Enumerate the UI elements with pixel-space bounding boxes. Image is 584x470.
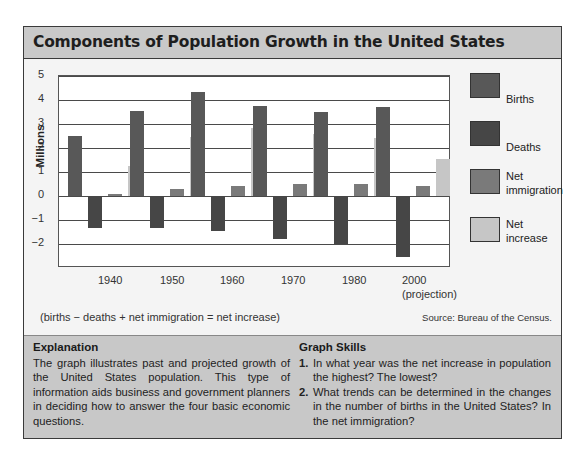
source-note: Source: Bureau of the Census. — [422, 312, 552, 323]
bar-deaths — [211, 196, 225, 231]
question-text: What trends can be determined in the cha… — [313, 386, 551, 427]
question-number: 1. — [299, 356, 308, 370]
chart-title: Components of Population Growth in the U… — [33, 33, 504, 51]
x-tick-label: 2000 — [402, 273, 457, 287]
info-panel: Explanation The graph illustrates past a… — [24, 335, 561, 438]
chart-area: Millions 5 4 3 2 1 0 −1 −2 1940 1950 196… — [24, 60, 561, 335]
bar-deaths — [334, 196, 348, 244]
bar-net-immigration — [108, 194, 122, 196]
y-tick: −1 — [24, 212, 44, 224]
legend-label-text: immigration — [506, 183, 563, 197]
gridline — [59, 220, 449, 221]
bar-net-immigration — [354, 184, 368, 196]
explanation-heading: Explanation — [33, 341, 290, 353]
legend-swatch — [470, 121, 500, 146]
plot-area — [58, 75, 450, 267]
legend-swatch — [470, 217, 500, 242]
gridline — [59, 76, 449, 77]
bar-births — [253, 106, 267, 196]
y-tick: 1 — [24, 164, 44, 176]
bar-births — [314, 112, 328, 196]
x-tick-label: 1940 — [98, 274, 122, 286]
legend-label-text: increase — [506, 231, 548, 245]
x-tick-label: 1970 — [281, 274, 305, 286]
legend-label: Net increase — [506, 217, 548, 245]
formula-note: (births − deaths + net immigration = net… — [40, 311, 280, 323]
legend-label-text: Deaths — [506, 140, 541, 154]
bar-births — [130, 111, 144, 196]
graph-skills-heading: Graph Skills — [299, 341, 551, 353]
x-tick: 1950 — [160, 273, 184, 287]
y-tick: 4 — [24, 92, 44, 104]
bar-deaths — [396, 196, 410, 257]
question-text: In what year was the net increase in pop… — [313, 357, 551, 383]
gridline — [59, 100, 449, 101]
y-tick: 2 — [24, 140, 44, 152]
y-tick: 3 — [24, 116, 44, 128]
bar-births — [376, 107, 390, 196]
bar-deaths — [150, 196, 164, 228]
gridline — [59, 196, 449, 197]
legend-label-text: Net — [506, 217, 548, 231]
x-tick: 1980 — [342, 273, 366, 287]
legend-swatch — [470, 169, 500, 194]
graph-skills-question: 1. In what year was the net increase in … — [299, 356, 551, 385]
bar-deaths — [88, 196, 102, 228]
explanation-text: The graph illustrates past and projected… — [33, 356, 290, 428]
legend-label-text: Net — [506, 169, 563, 183]
y-tick: −2 — [24, 236, 44, 248]
x-tick: 2000 (projection) — [402, 273, 457, 301]
title-bar: Components of Population Growth in the U… — [24, 27, 561, 59]
x-tick: 1970 — [281, 273, 305, 287]
x-tick-label: 1950 — [160, 274, 184, 286]
bar-net-immigration — [170, 189, 184, 196]
bar-births — [191, 92, 205, 196]
x-tick: 1960 — [220, 273, 244, 287]
y-tick: 5 — [24, 68, 44, 80]
bar-net-increase — [436, 159, 450, 196]
graph-skills-question: 2. What trends can be determined in the … — [299, 385, 551, 428]
gridline — [59, 244, 449, 245]
x-tick: 1940 — [98, 273, 122, 287]
x-tick-sublabel: (projection) — [402, 287, 457, 301]
legend-swatch — [470, 73, 500, 98]
legend-label-text: Births — [506, 92, 534, 106]
x-tick-label: 1980 — [342, 274, 366, 286]
graph-skills-list: 1. In what year was the net increase in … — [299, 356, 551, 428]
bar-net-immigration — [293, 184, 307, 196]
bar-net-immigration — [416, 186, 430, 196]
legend-label: Births — [506, 92, 534, 106]
graph-skills-section: Graph Skills 1. In what year was the net… — [299, 341, 551, 428]
bar-net-immigration — [231, 186, 245, 196]
legend-label: Net immigration — [506, 169, 563, 197]
bar-deaths — [273, 196, 287, 239]
question-number: 2. — [299, 385, 308, 399]
legend-label: Deaths — [506, 140, 541, 154]
y-tick: 0 — [24, 188, 44, 200]
bar-births — [68, 136, 82, 196]
x-tick-label: 1960 — [220, 274, 244, 286]
figure-frame: Components of Population Growth in the U… — [23, 26, 562, 439]
explanation-section: Explanation The graph illustrates past a… — [33, 341, 290, 428]
